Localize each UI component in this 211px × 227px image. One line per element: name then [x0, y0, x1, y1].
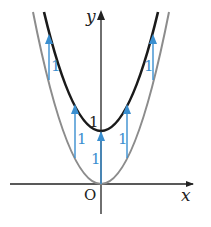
x-axis-label: x: [181, 185, 191, 205]
origin-label: O: [84, 186, 96, 204]
y-axis-label: y: [86, 6, 96, 26]
shift-label-outer-left: 1: [51, 57, 61, 75]
shift-label-center: 1: [91, 150, 101, 168]
shift-label-inner-left: 1: [77, 130, 87, 148]
y-axis-arrow-icon: [97, 10, 105, 20]
shift-label-inner-right: 1: [118, 130, 128, 148]
y-tick-label: 1: [89, 113, 99, 131]
graph-canvas: [0, 0, 211, 227]
shift-label-outer-right: 1: [144, 57, 154, 75]
